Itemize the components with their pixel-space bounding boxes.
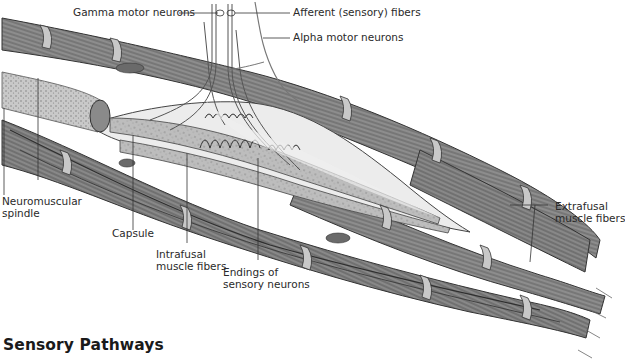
label-alpha-motor-neurons: Alpha motor neurons (293, 31, 403, 43)
label-gamma-motor-neurons: Gamma motor neurons (73, 6, 195, 18)
label-neuromuscular-spindle: Neuromuscular spindle (2, 195, 82, 219)
label-extrafusal-fibers: Extrafusal muscle fibers (555, 200, 625, 224)
label-capsule: Capsule (112, 227, 154, 239)
label-intrafusal-fibers: Intrafusal muscle fibers (156, 248, 226, 272)
section-title: Sensory Pathways (3, 336, 164, 354)
label-endings-sensory-neurons: Endings of sensory neurons (223, 266, 310, 290)
label-afferent-fibers: Afferent (sensory) fibers (293, 6, 421, 18)
